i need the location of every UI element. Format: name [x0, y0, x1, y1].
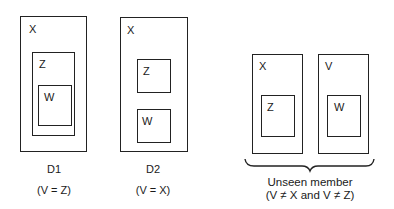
unseen-condition: (V ≠ X and V ≠ Z) — [266, 190, 355, 202]
unseen-caption: Unseen member — [267, 177, 352, 189]
